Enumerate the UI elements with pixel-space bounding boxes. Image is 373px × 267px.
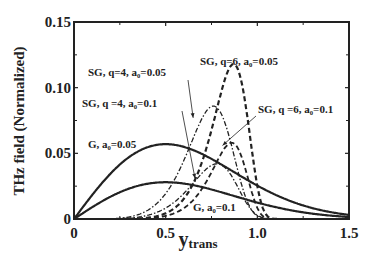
x-tick-label: 0.5 [156, 225, 175, 241]
x-tick-label: 0 [70, 225, 78, 241]
y-tick-label: 0.15 [45, 14, 71, 30]
x-axis-title: ytrans [179, 228, 218, 251]
arrowhead-icon [191, 113, 195, 118]
annotation-label: SG, q =6, a₀=0.1 [258, 103, 333, 115]
x-axis-title-subscript: trans [189, 236, 218, 251]
x-tick-label: 1.5 [340, 225, 359, 241]
annotation-arrow [223, 116, 257, 145]
annotation-arrow [188, 80, 193, 118]
annotation-label: G, a₀=0.1 [193, 201, 236, 213]
annotation-label: SG, q =4, a₀=0.1 [82, 97, 157, 109]
y-tick-label: 0.05 [45, 145, 71, 161]
annotation-label: G, a₀=0.05 [88, 138, 137, 150]
annotation-label: SG, q=4, a₀=0.05 [88, 66, 166, 78]
annotation-label: SG, q=6, a₀=0.05 [200, 55, 278, 67]
annotation-arrow [182, 111, 195, 178]
y-tick-label: 0.10 [45, 80, 71, 96]
y-axis-title: THz field (Normalized) [11, 46, 28, 195]
x-axis-title-main: y [179, 228, 189, 251]
x-tick-label: 1.0 [248, 225, 267, 241]
y-tick-label: 0 [64, 211, 72, 227]
chart: 00.51.01.500.050.100.15 G, a₀=0.05G, a₀=… [0, 0, 373, 267]
